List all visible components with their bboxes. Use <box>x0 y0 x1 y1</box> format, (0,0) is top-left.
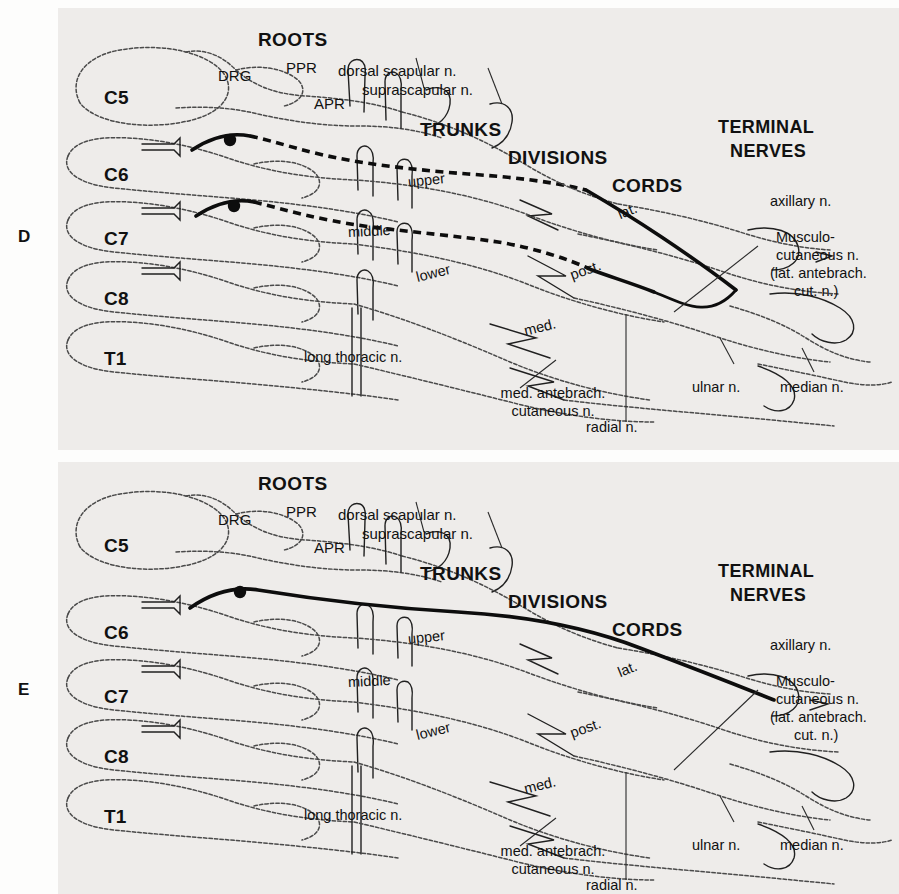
trunk-label-middle-e: middle <box>348 673 391 691</box>
origin-dot-e <box>234 586 246 598</box>
label-lat-antebrach-d: (lat. antebrach. <box>770 266 867 282</box>
header-trunks-d: TRUNKS <box>420 120 502 141</box>
label-drg-d: DRG <box>218 68 251 84</box>
label-suprascapular-n-d: suprascapular n. <box>362 82 473 98</box>
header-terminal-d: TERMINAL <box>718 118 814 137</box>
trunk-label-middle-d: middle <box>348 223 391 241</box>
header-divisions-e: DIVISIONS <box>508 592 608 613</box>
root-label-c7-e: C7 <box>104 687 129 708</box>
panel-e-nerve-drawing <box>58 462 899 894</box>
label-med-antebrach-d: med. antebrach. <box>468 386 638 402</box>
label-cut-n-d: cut. n.) <box>794 284 838 300</box>
label-cutaneous-n-term-e: cutaneous n. <box>776 692 859 708</box>
label-ppr-e: PPR <box>286 504 317 520</box>
label-dorsal-scapular-n-e: dorsal scapular n. <box>338 507 456 523</box>
label-long-thoracic-line1-d: long thoracic n. <box>304 350 394 366</box>
origin-dot-1 <box>224 134 236 146</box>
label-musculo-e: Musculo- <box>776 674 835 690</box>
header-nerves-d: NERVES <box>730 142 806 161</box>
label-cutaneous-n-d: cutaneous n. <box>468 404 638 420</box>
label-med-antebrach-e: med. antebrach. <box>468 844 638 860</box>
origin-dot-2 <box>228 200 240 212</box>
root-label-c5-d: C5 <box>104 88 129 109</box>
root-label-t1-d: T1 <box>104 349 127 370</box>
root-label-c8-e: C8 <box>104 747 129 768</box>
panel-letter-d: D <box>18 227 30 247</box>
label-ppr-d: PPR <box>286 60 317 76</box>
label-lat-antebrach-e: (lat. antebrach. <box>770 710 867 726</box>
root-label-c6-d: C6 <box>104 165 129 186</box>
label-apr-e: APR <box>314 540 345 556</box>
label-ulnar-n-d: ulnar n. <box>692 380 740 396</box>
header-terminal-e: TERMINAL <box>718 562 814 581</box>
header-roots-e: ROOTS <box>258 474 328 495</box>
label-apr-d: APR <box>314 96 345 112</box>
label-suprascapular-n-e: suprascapular n. <box>362 526 473 542</box>
panel-letter-e: E <box>18 680 29 700</box>
root-label-c5-e: C5 <box>104 536 129 557</box>
label-radial-n-e: radial n. <box>586 878 638 894</box>
panel-e: ROOTS DRG PPR APR dorsal scapular n. sup… <box>58 462 899 894</box>
root-label-c7-d: C7 <box>104 229 129 250</box>
header-divisions-d: DIVISIONS <box>508 148 608 169</box>
header-cords-e: CORDS <box>612 620 683 641</box>
header-cords-d: CORDS <box>612 176 683 197</box>
label-cut-n-e: cut. n.) <box>794 728 838 744</box>
label-long-thoracic-line1-e: long thoracic n. <box>304 808 394 824</box>
label-median-n-d: median n. <box>780 380 844 396</box>
panel-d: ROOTS DRG PPR APR dorsal scapular n. sup… <box>58 8 899 450</box>
header-roots-d: ROOTS <box>258 30 328 51</box>
root-label-c8-d: C8 <box>104 289 129 310</box>
label-ulnar-n-e: ulnar n. <box>692 838 740 854</box>
label-median-n-e: median n. <box>780 838 844 854</box>
label-cutaneous-n-e: cutaneous n. <box>468 862 638 878</box>
header-nerves-e: NERVES <box>730 586 806 605</box>
label-dorsal-scapular-n-d: dorsal scapular n. <box>338 63 456 79</box>
root-label-c6-e: C6 <box>104 623 129 644</box>
label-axillary-n-d: axillary n. <box>770 194 831 210</box>
label-cutaneous-n-term-d: cutaneous n. <box>776 248 859 264</box>
root-label-t1-e: T1 <box>104 807 127 828</box>
label-radial-n-d: radial n. <box>586 420 638 436</box>
label-musculo-d: Musculo- <box>776 230 835 246</box>
panel-d-nerve-drawing <box>58 8 899 450</box>
label-axillary-n-e: axillary n. <box>770 638 831 654</box>
label-drg-e: DRG <box>218 512 251 528</box>
header-trunks-e: TRUNKS <box>420 564 502 585</box>
